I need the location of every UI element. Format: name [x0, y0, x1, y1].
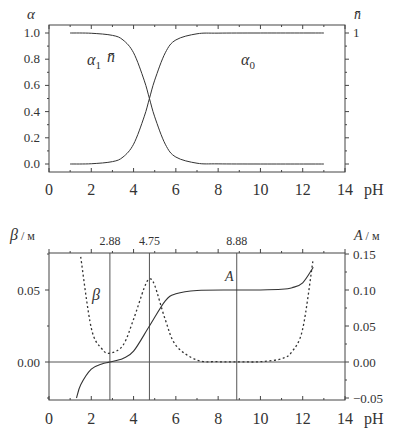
x-axis-label: pH [364, 410, 384, 428]
curve-β [81, 257, 313, 362]
y-right-tick-label: −0.05 [353, 391, 383, 406]
marker-label: 2.88 [99, 234, 120, 248]
y-right-tick-label: 0.00 [353, 355, 376, 370]
y-tick-label: 0.2 [24, 130, 40, 145]
x-tick-label: 14 [337, 181, 353, 198]
x-tick-label: 8 [214, 410, 222, 427]
x-tick-label: 4 [130, 181, 138, 198]
y-tick-label: 0.00 [17, 355, 40, 370]
x-tick-label: 10 [252, 181, 268, 198]
y-tick-label: 0.6 [24, 77, 41, 92]
x-tick-label: 2 [87, 181, 95, 198]
y-right-axis-label-a: A / м [353, 228, 380, 243]
x-axis-label: pH [364, 181, 384, 199]
marker-label: 4.75 [139, 234, 160, 248]
y-right-tick-label: 0.10 [353, 283, 376, 298]
y-tick-label: 0.05 [17, 283, 40, 298]
plot-frame [49, 25, 345, 172]
x-tick-label: 12 [295, 181, 311, 198]
x-tick-label: 2 [87, 410, 95, 427]
y-right-tick-label: 1 [353, 25, 360, 40]
x-tick-label: 4 [130, 410, 138, 427]
plot-frame [49, 253, 345, 400]
x-tick-label: 12 [295, 410, 311, 427]
marker-label: 8.88 [226, 234, 247, 248]
x-tick-label: 6 [172, 181, 180, 198]
label-nbar: n̄ [107, 48, 115, 65]
label-alpha1: α1 [87, 51, 101, 71]
chart-figure: 02468101214pH0.00.20.40.60.81.01αn̄α1n̄α… [0, 0, 400, 440]
curve-a [76, 267, 313, 398]
x-tick-label: 0 [45, 181, 53, 198]
y-right-axis-label-nbar: n̄ [354, 7, 361, 22]
x-tick-label: 8 [214, 181, 222, 198]
bottom-panel-buffer-capacity: 02468101214pH0.000.05−0.050.000.050.100.… [9, 226, 384, 428]
x-tick-label: 6 [172, 410, 180, 427]
y-axis-label-beta: β / м [9, 226, 35, 244]
y-right-tick-label: 0.15 [353, 247, 376, 262]
top-panel-alpha-fractions: 02468101214pH0.00.20.40.60.81.01αn̄α1n̄α… [24, 6, 384, 199]
y-tick-label: 0.8 [24, 51, 40, 66]
x-tick-label: 0 [45, 410, 53, 427]
label-alpha0: α0 [241, 51, 255, 71]
x-tick-label: 10 [252, 410, 268, 427]
y-tick-label: 0.4 [24, 104, 41, 119]
y-tick-label: 0.0 [24, 156, 40, 171]
y-axis-label-alpha: α [27, 6, 36, 22]
label-a: A [224, 269, 234, 284]
y-tick-label: 1.0 [24, 25, 40, 40]
x-tick-label: 14 [337, 410, 353, 427]
y-right-tick-label: 0.05 [353, 319, 376, 334]
label-beta: β [91, 286, 100, 304]
